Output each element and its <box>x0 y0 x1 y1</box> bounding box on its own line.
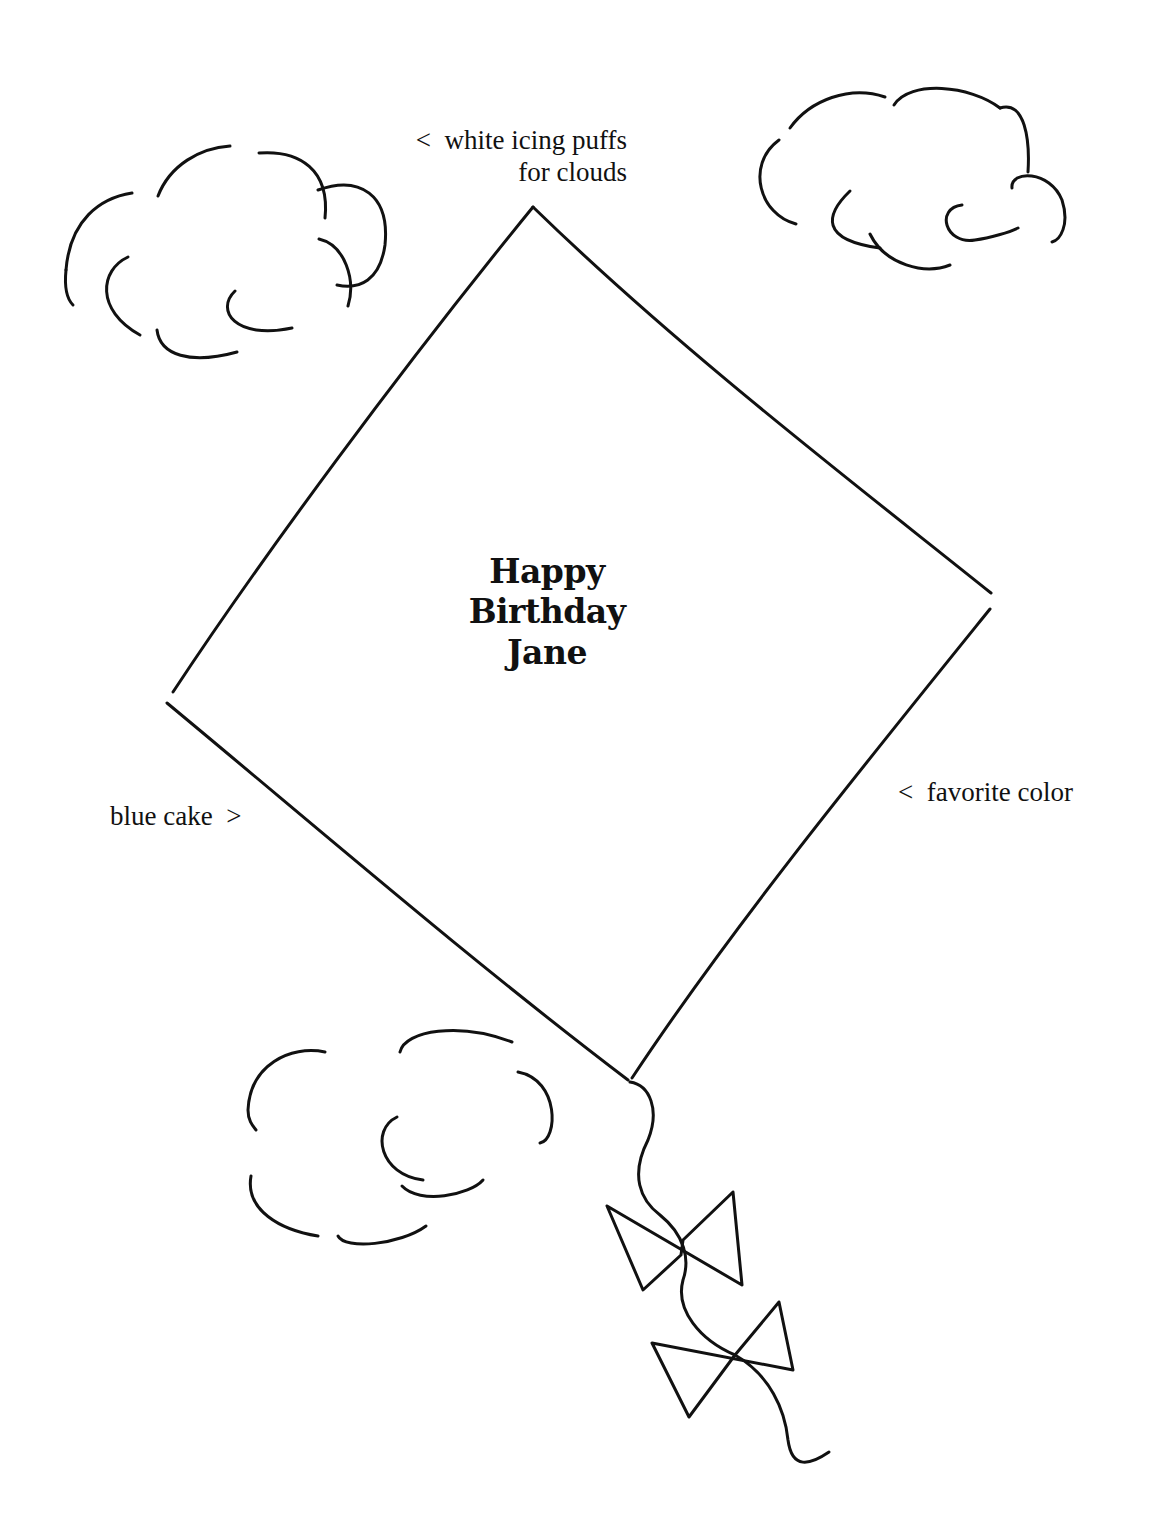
clouds-annotation: < white icing puffs for clouds <box>372 124 627 189</box>
left-arrow-icon: < <box>898 777 913 807</box>
cloud-bottom <box>248 1031 552 1244</box>
birthday-greeting: Happy Birthday Jane <box>430 552 664 673</box>
left-arrow-icon: < <box>416 125 431 155</box>
cake-annotation: blue cake > <box>110 800 241 832</box>
kite-tail <box>607 1082 829 1462</box>
cloud-top-right <box>760 88 1065 268</box>
greeting-line-1: Happy <box>430 552 664 592</box>
cake-annotation-text: blue cake <box>110 801 213 831</box>
right-arrow-icon: > <box>226 801 241 831</box>
kite-color-annotation-text: favorite color <box>927 777 1073 807</box>
kite-edge-top-right <box>533 207 991 593</box>
greeting-line-2: Birthday <box>430 592 664 632</box>
bow-upper <box>607 1192 742 1290</box>
tail-string <box>630 1082 829 1462</box>
cloud-top-left <box>65 146 385 358</box>
kite-edge-bottom-right <box>632 609 990 1078</box>
drawing <box>0 0 1173 1531</box>
bow-lower <box>652 1302 793 1417</box>
kite-color-annotation: < favorite color <box>898 776 1073 808</box>
kite-edge-bottom-left <box>167 703 628 1080</box>
clouds-annotation-line1: < white icing puffs <box>372 124 627 156</box>
clouds-annotation-line2: for clouds <box>372 156 627 188</box>
kite-cake-illustration: < white icing puffs for clouds blue cake… <box>0 0 1173 1531</box>
greeting-line-3: Jane <box>430 633 664 673</box>
